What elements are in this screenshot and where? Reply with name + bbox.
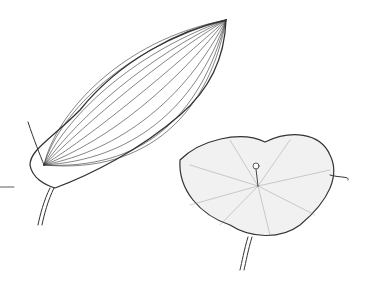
botanical-drawing	[0, 0, 368, 282]
right-leaf	[180, 135, 348, 270]
illustration	[0, 0, 368, 282]
